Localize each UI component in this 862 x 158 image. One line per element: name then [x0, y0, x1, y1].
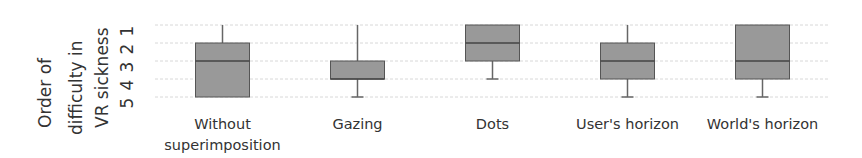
- x-tick-label: Dots: [476, 116, 509, 132]
- x-tick-label: superimposition: [164, 137, 280, 153]
- box: [331, 61, 385, 79]
- y-tick-label: 2: [117, 44, 137, 55]
- box: [196, 43, 250, 97]
- box: [736, 25, 790, 79]
- x-tick-label: Without: [194, 116, 251, 132]
- box-plot: 12345WithoutsuperimpositionGazingDotsUse…: [0, 0, 862, 158]
- y-tick-label: 1: [117, 26, 137, 37]
- y-tick-label: 4: [117, 80, 137, 91]
- x-tick-label: User's horizon: [576, 116, 679, 132]
- x-tick-label: World's horizon: [707, 116, 818, 132]
- y-tick-label: 3: [117, 62, 137, 73]
- y-tick-label: 5: [117, 98, 137, 109]
- x-tick-label: Gazing: [332, 116, 382, 132]
